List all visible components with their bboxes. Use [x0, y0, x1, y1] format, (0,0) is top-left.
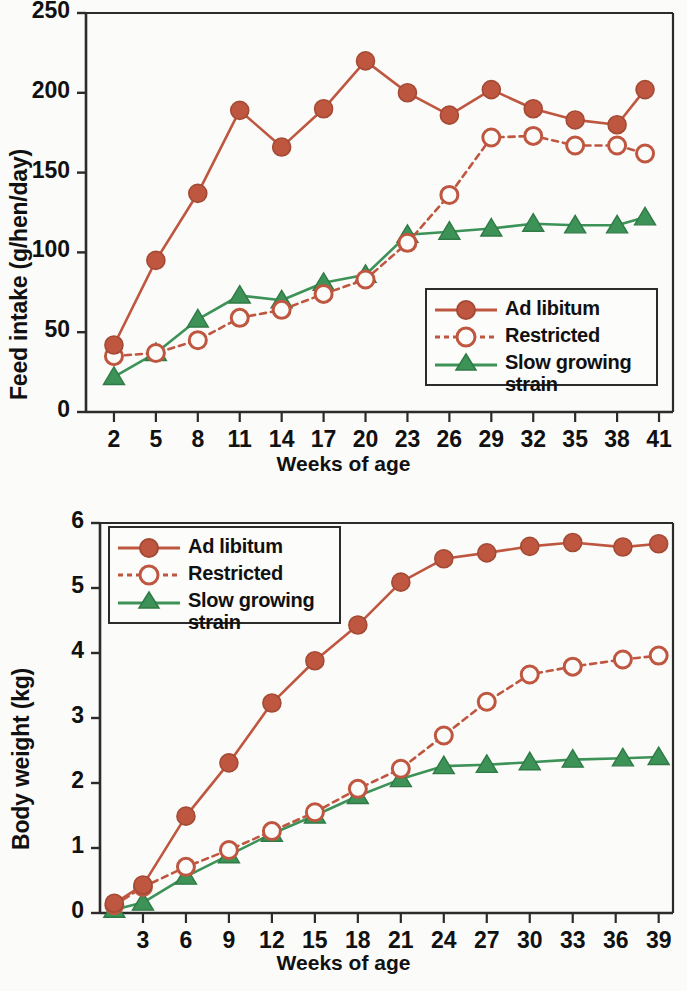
legend-item-ad-libitum: Ad libitum	[116, 535, 331, 561]
y-axis-tick-label: 250	[8, 0, 70, 24]
y-axis-tick-label: 0	[22, 897, 84, 924]
data-point-marker	[273, 301, 290, 318]
y-axis-tick-label: 100	[8, 236, 70, 263]
data-point-marker	[478, 544, 496, 562]
data-point-marker	[177, 807, 195, 825]
y-axis-tick-label: 3	[22, 702, 84, 729]
data-point-marker	[392, 573, 410, 591]
data-point-marker	[521, 537, 539, 555]
data-point-marker	[650, 535, 668, 553]
y-axis-tick-label: 6	[22, 507, 84, 534]
data-point-marker	[349, 616, 367, 634]
data-point-marker	[229, 286, 250, 304]
y-axis-tick-label: 150	[8, 157, 70, 184]
data-point-marker	[177, 858, 194, 875]
data-point-marker	[566, 111, 584, 129]
data-point-marker	[349, 780, 366, 797]
legend-label-ad-libitum: Ad libitum	[182, 535, 283, 557]
legend-key-ad-libitum-icon	[433, 297, 499, 323]
y-axis-tick-label: 0	[8, 396, 70, 423]
y-axis-tick-label: 200	[8, 77, 70, 104]
legend-label-restricted: Restricted	[182, 562, 283, 584]
y-axis-tick-label: 1	[22, 832, 84, 859]
data-point-marker	[147, 251, 165, 269]
data-point-marker	[263, 694, 281, 712]
legend-item-restricted: Restricted	[433, 324, 648, 350]
data-point-marker	[306, 804, 323, 821]
legend-key-slow-growing-icon	[433, 351, 499, 377]
legend-feed-intake: Ad libitum Restricted Sl	[425, 288, 658, 386]
data-point-marker	[614, 651, 631, 668]
data-point-marker	[315, 285, 332, 302]
data-point-marker	[105, 336, 123, 354]
data-point-marker	[435, 727, 452, 744]
legend-item-ad-libitum: Ad libitum	[433, 297, 648, 323]
plot-area-body-weight	[0, 490, 687, 991]
data-point-marker	[189, 184, 207, 202]
data-point-marker	[608, 116, 626, 134]
y-axis-tick-label: 2	[22, 767, 84, 794]
data-point-marker	[134, 876, 152, 894]
data-point-marker	[482, 81, 500, 99]
figure-two-panel-chart: Feed intake (g/hen/day) Weeks of age Ad …	[0, 0, 687, 991]
data-point-marker	[648, 747, 669, 765]
data-point-marker	[398, 84, 416, 102]
data-point-marker	[231, 101, 249, 119]
data-point-marker	[564, 534, 582, 552]
legend-key-restricted-icon	[433, 324, 499, 350]
data-point-marker	[263, 823, 280, 840]
legend-key-restricted-icon	[116, 562, 182, 588]
data-point-marker	[220, 841, 237, 858]
data-point-marker	[105, 894, 123, 912]
legend-item-restricted: Restricted	[116, 562, 331, 588]
x-axis-tick-label: 41	[634, 426, 684, 453]
data-point-marker	[521, 666, 538, 683]
data-point-marker	[147, 344, 164, 361]
data-point-marker	[564, 658, 581, 675]
legend-key-slow-growing-icon	[116, 589, 182, 615]
data-point-marker	[189, 332, 206, 349]
y-axis-tick-label: 5	[22, 572, 84, 599]
data-point-marker	[441, 186, 458, 203]
data-point-marker	[524, 100, 542, 118]
data-point-marker	[273, 138, 291, 156]
data-point-marker	[637, 145, 654, 162]
panel-body-weight: Body weight (kg) Weeks of age Ad libitum	[0, 490, 687, 991]
data-point-marker	[220, 754, 238, 772]
data-point-marker	[357, 52, 375, 70]
data-point-marker	[399, 234, 416, 251]
legend-key-ad-libitum-icon	[116, 535, 182, 561]
plot-area-feed-intake	[0, 0, 687, 500]
data-point-marker	[187, 309, 208, 327]
data-point-marker	[614, 538, 632, 556]
data-point-marker	[435, 550, 453, 568]
data-point-marker	[315, 100, 333, 118]
data-point-marker	[231, 309, 248, 326]
legend-label-slow-growing: Slow growing strain	[182, 589, 314, 633]
y-axis-tick-label: 4	[22, 637, 84, 664]
legend-label-restricted: Restricted	[499, 324, 600, 346]
legend-item-slow-growing: Slow growing strain	[433, 351, 648, 395]
data-point-marker	[609, 137, 626, 154]
data-point-marker	[650, 647, 667, 664]
legend-label-ad-libitum: Ad libitum	[499, 297, 600, 319]
panel-feed-intake: Feed intake (g/hen/day) Weeks of age Ad …	[0, 0, 687, 500]
data-point-marker	[306, 652, 324, 670]
data-point-marker	[636, 81, 654, 99]
data-point-marker	[483, 129, 500, 146]
data-point-marker	[567, 137, 584, 154]
legend-body-weight: Ad libitum Restricted Sl	[108, 526, 341, 624]
x-axis-tick-label: 39	[634, 927, 684, 954]
data-point-marker	[440, 106, 458, 124]
series-line-restricted	[114, 656, 658, 906]
legend-label-slow-growing: Slow growing strain	[499, 351, 631, 395]
data-point-marker	[523, 214, 544, 232]
data-point-marker	[635, 207, 656, 225]
series-line-slow-growing-strain	[114, 757, 658, 910]
data-point-marker	[357, 271, 374, 288]
data-point-marker	[392, 760, 409, 777]
data-point-marker	[103, 367, 124, 385]
y-axis-tick-label: 50	[8, 316, 70, 343]
data-point-marker	[478, 693, 495, 710]
x-axis-label-feed-intake: Weeks of age	[0, 452, 687, 476]
